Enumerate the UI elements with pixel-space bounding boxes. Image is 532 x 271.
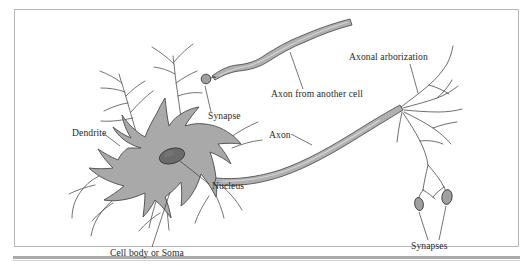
dendrite-branches-lower-left [69,176,118,236]
label-dendrite: Dendrite [72,127,106,138]
synapse-terminal-right [441,189,453,205]
label-cell-body-or-soma: Cell body or Soma [110,247,185,258]
label-synapses: Synapses [411,240,448,251]
leader-axonal-arborization [410,64,418,93]
label-axonal-arborization: Axonal arborization [349,51,428,62]
neuron-illustration: Dendrite Synapse Axon from another cell … [0,0,532,271]
label-axon-from-another-cell: Axon from another cell [271,88,363,99]
leader-synapses-right [439,206,446,240]
axon-inner-highlight [222,120,380,181]
axon-band [214,105,403,186]
dendrite-branches-lower-right [195,186,242,223]
label-synapse: Synapse [208,110,241,121]
synapse-terminal-left [414,197,425,211]
label-axon: Axon [269,129,291,140]
neuron-diagram-figure: Dendrite Synapse Axon from another cell … [0,0,532,271]
leader-synapse [205,86,211,112]
leader-axon-from-another-cell [290,52,303,89]
leader-axon [291,134,312,145]
label-nucleus: Nucleus [212,180,244,191]
synapse-bouton [201,74,211,84]
axonal-arborization [397,46,462,202]
dendrite-branches-right-upper [228,122,262,148]
leader-synapses-left [419,212,428,240]
